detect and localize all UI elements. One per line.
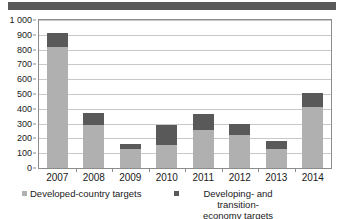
- legend-item-developed[interactable]: Developed-country targets: [22, 188, 141, 199]
- bar-segment-developed[interactable]: [47, 47, 68, 168]
- y-axis-tick-label: 0: [27, 164, 32, 173]
- y-axis-tick-label: 900: [17, 30, 32, 39]
- bar-segment-developing[interactable]: [156, 125, 177, 145]
- bar-stack[interactable]: [83, 113, 104, 168]
- y-axis-tick-mark: [33, 108, 36, 109]
- bar-segment-developed[interactable]: [266, 149, 287, 168]
- y-axis-tick-mark: [33, 138, 36, 139]
- bar-stack[interactable]: [120, 144, 141, 168]
- x-axis-tick-label: 2008: [83, 172, 105, 184]
- bar-segment-developing[interactable]: [302, 93, 323, 106]
- chart-legend: Developed-country targets Developing- an…: [22, 188, 322, 216]
- legend-item-label: Developing- and transition- economy targ…: [182, 188, 294, 219]
- legend-swatch-icon: [22, 191, 27, 196]
- y-axis-tick-label: 800: [17, 45, 32, 54]
- y-axis: 1 0009008007006005004003002001000: [0, 19, 36, 169]
- y-axis-tick-label: 200: [17, 134, 32, 143]
- bar-segment-developing[interactable]: [229, 124, 250, 135]
- y-axis-tick-label: 300: [17, 119, 32, 128]
- bar-segment-developed[interactable]: [120, 149, 141, 168]
- legend-swatch-icon: [174, 191, 179, 196]
- legend-item-developing[interactable]: Developing- and transition- economy targ…: [174, 188, 294, 219]
- y-axis-tick-label: 1 000: [9, 16, 32, 25]
- bar-slot: [229, 20, 250, 168]
- bar-slot: [47, 20, 68, 168]
- bar-slot: [302, 20, 323, 168]
- y-axis-tick-mark: [33, 49, 36, 50]
- chart-figure: 1 0009008007006005004003002001000 200720…: [0, 0, 342, 219]
- bar-slot: [193, 20, 214, 168]
- y-axis-tick-mark: [33, 94, 36, 95]
- x-axis-tick-label: 2014: [302, 172, 324, 184]
- bars-layer: [39, 20, 331, 168]
- bar-segment-developing[interactable]: [83, 113, 104, 126]
- y-axis-tick-mark: [33, 123, 36, 124]
- bar-stack[interactable]: [266, 141, 287, 168]
- x-axis-tick-label: 2013: [265, 172, 287, 184]
- bar-slot: [156, 20, 177, 168]
- x-axis-tick-label: 2010: [156, 172, 178, 184]
- bar-segment-developing[interactable]: [266, 141, 287, 149]
- bar-segment-developed[interactable]: [83, 125, 104, 168]
- bar-stack[interactable]: [156, 125, 177, 168]
- bar-segment-developed[interactable]: [302, 107, 323, 168]
- y-axis-tick-mark: [33, 20, 36, 21]
- bar-segment-developed[interactable]: [156, 145, 177, 168]
- bar-stack[interactable]: [193, 114, 214, 168]
- bar-slot: [266, 20, 287, 168]
- y-axis-tick-label: 500: [17, 90, 32, 99]
- y-axis-tick-mark: [33, 79, 36, 80]
- bar-stack[interactable]: [302, 93, 323, 168]
- x-axis-tick-label: 2012: [229, 172, 251, 184]
- y-axis-tick-label: 400: [17, 104, 32, 113]
- y-axis-tick-label: 700: [17, 60, 32, 69]
- bar-segment-developing[interactable]: [193, 114, 214, 130]
- y-axis-tick-mark: [33, 64, 36, 65]
- x-axis-tick-label: 2009: [119, 172, 141, 184]
- top-banner-bar: [8, 2, 336, 10]
- y-axis-tick-label: 600: [17, 75, 32, 84]
- bar-segment-developing[interactable]: [47, 33, 68, 46]
- bar-stack[interactable]: [47, 33, 68, 168]
- x-axis: 20072008200920102011201220132014: [38, 172, 332, 186]
- bar-stack[interactable]: [229, 124, 250, 168]
- bar-slot: [83, 20, 104, 168]
- y-axis-tick-mark: [33, 168, 36, 169]
- x-axis-tick-label: 2007: [46, 172, 68, 184]
- bar-segment-developed[interactable]: [229, 135, 250, 168]
- legend-item-label: Developed-country targets: [30, 188, 141, 199]
- y-axis-tick-mark: [33, 153, 36, 154]
- bar-segment-developed[interactable]: [193, 130, 214, 168]
- x-axis-tick-label: 2011: [192, 172, 214, 184]
- y-axis-tick-mark: [33, 34, 36, 35]
- bar-slot: [120, 20, 141, 168]
- y-axis-tick-label: 100: [17, 149, 32, 158]
